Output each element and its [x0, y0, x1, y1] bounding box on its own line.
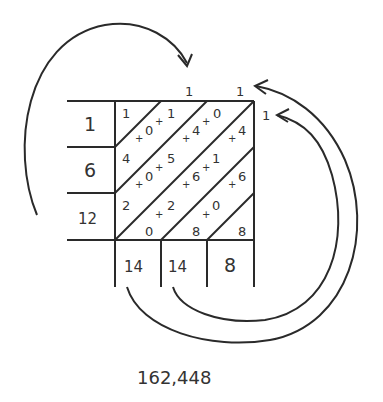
top-carry-1: 1: [185, 84, 193, 99]
digit: 8: [238, 224, 246, 239]
digit: 4: [122, 151, 130, 166]
digit: 0: [145, 123, 153, 138]
column-sum-1: 14: [124, 258, 143, 276]
diagonal-3: [115, 101, 254, 240]
column-sums: 14 14 8: [124, 254, 236, 276]
plus-icon: +: [155, 162, 163, 173]
result-text: 162,448: [137, 367, 211, 388]
plus-icon: +: [202, 116, 210, 127]
plus-icon: +: [155, 209, 163, 220]
plus-icon: +: [182, 179, 190, 190]
digit: 6: [238, 169, 246, 184]
arrowhead-icon: [277, 109, 289, 122]
carry-arrows: [25, 24, 358, 343]
digit: 4: [192, 123, 200, 138]
digit: 0: [213, 106, 221, 121]
digit: 6: [192, 169, 200, 184]
row-labels: 1 6 12: [78, 113, 97, 228]
digit: 2: [167, 198, 175, 213]
row-label-3: 12: [78, 210, 97, 228]
lattice-diagonals: [115, 101, 254, 240]
digit: 8: [192, 224, 200, 239]
digit: 0: [145, 169, 153, 184]
plus-icon: +: [228, 179, 236, 190]
digit: 0: [145, 224, 153, 239]
plus-icon: +: [202, 209, 210, 220]
digit: 1: [122, 106, 130, 121]
column-sum-3: 8: [224, 254, 236, 276]
row-label-2: 6: [84, 159, 96, 181]
plus-icon: +: [182, 133, 190, 144]
digit: 0: [212, 198, 220, 213]
lattice-diagram: 1 6 12 1 0 1 4 0 4 4 5 1 0 6 6 2 2 0 0 8…: [0, 0, 383, 402]
digit: 1: [167, 106, 175, 121]
right-carry: 1: [262, 108, 270, 123]
arc-inner-right: [173, 115, 338, 321]
digit: 1: [212, 151, 220, 166]
plus-icon: +: [228, 133, 236, 144]
top-carry-2: 1: [236, 84, 244, 99]
digit: 5: [167, 151, 175, 166]
plus-icon: +: [135, 179, 143, 190]
column-sum-2: 14: [168, 258, 187, 276]
plus-icon: +: [155, 116, 163, 127]
plus-icon: +: [202, 162, 210, 173]
plus-icon: +: [135, 133, 143, 144]
digit: 4: [238, 123, 246, 138]
digit: 2: [122, 198, 130, 213]
row-label-1: 1: [84, 113, 96, 135]
